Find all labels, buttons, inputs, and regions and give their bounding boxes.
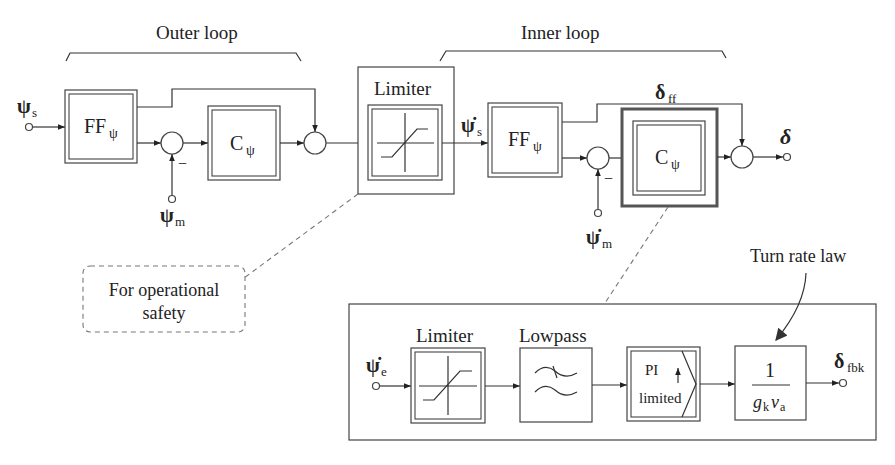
svg-text:k: k [763,400,769,414]
input-terminal-psi-m [169,196,176,203]
callout-leader-controller [605,207,668,303]
turn-rate-law-block: 1 g k v a [735,346,806,420]
output-terminal-delta-fbk [840,380,847,387]
pi-limited-block: PI limited [627,347,700,421]
svg-text:ψ: ψ [533,139,542,154]
output-terminal-delta [784,154,791,161]
minus-sign: − [178,155,187,172]
svg-text:ψ: ψ [17,95,31,118]
svg-text:Lowpass: Lowpass [519,325,587,346]
svg-text:C: C [655,146,668,168]
sum-junction-inner-2 [731,146,753,168]
svg-text:Limiter: Limiter [416,325,474,346]
inner-loop-label: Inner loop [521,22,600,43]
svg-text:FF: FF [84,115,106,137]
svg-text:fbk: fbk [847,360,865,375]
input-terminal-psi-s [26,124,33,131]
outer-loop-label: Outer loop [156,22,238,43]
inner-loop-brace [440,51,726,61]
inner-controller-block: C ψ [622,109,717,206]
inner-ff-block: FF ψ [488,103,562,177]
sum-junction-inner-1 [587,147,609,169]
svg-text:v: v [771,392,779,412]
svg-text:s: s [32,105,37,120]
input-terminal-psidot-e [373,383,380,390]
svg-text:C: C [230,132,243,154]
safety-note-line1: For operational [109,280,219,300]
input-terminal-psidot-m [595,210,602,217]
svg-text:δ: δ [655,81,665,103]
svg-text:s: s [477,124,482,139]
signal-psi-s: ψ s [17,95,37,120]
svg-text:m: m [175,214,185,229]
svg-text:g: g [753,392,762,412]
safety-note-line2: safety [143,303,186,323]
svg-text:δ: δ [834,350,844,372]
outer-loop-brace [66,53,301,61]
sum-junction-outer-2 [304,132,326,154]
limiter-block-top: Limiter [358,67,454,194]
svg-text:ψ: ψ [246,143,255,158]
svg-text:PI: PI [645,362,658,378]
svg-text:limited: limited [639,390,682,406]
outer-controller-block: C ψ [208,106,280,180]
svg-text:1: 1 [765,359,775,381]
svg-text:e: e [381,364,387,379]
svg-text:FF: FF [508,128,530,150]
signal-psidot-m: ψ̇ m [586,226,612,251]
signal-delta: δ [780,124,791,149]
svg-text:ψ̇: ψ̇ [366,354,382,377]
signal-delta-ff: δ ff [655,81,677,106]
sum-junction-outer-1 [161,132,183,154]
svg-text:Limiter: Limiter [374,78,432,99]
svg-text:ψ̇: ψ̇ [461,114,477,137]
signal-psi-m: ψ m [160,204,185,229]
svg-text:m: m [602,236,612,251]
callout-leader-limiter [244,194,358,278]
minus-sign: − [604,170,613,187]
svg-text:ψ: ψ [160,204,174,227]
svg-text:a: a [780,400,786,414]
outer-ff-block: FF ψ [65,90,137,163]
svg-text:ψ: ψ [671,157,680,172]
block-diagram: Outer loop Inner loop ψ s FF ψ − ψ m C ψ [0,0,895,465]
signal-psidot-s: ψ̇ s [461,114,482,139]
svg-text:ψ̇: ψ̇ [586,226,602,249]
svg-text:ψ: ψ [109,126,118,141]
turn-rate-law-label: Turn rate law [750,246,846,266]
lowpass-block: Lowpass [519,325,592,422]
svg-text:ff: ff [668,91,677,106]
